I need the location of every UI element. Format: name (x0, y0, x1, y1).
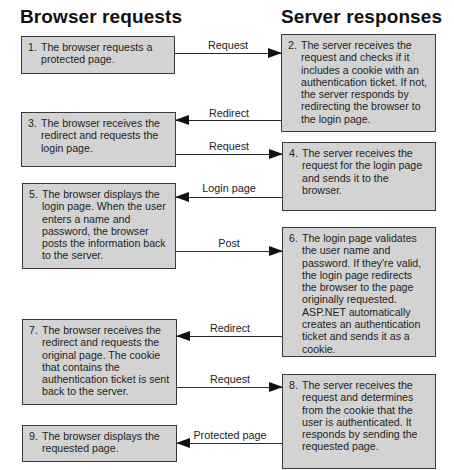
server-step-2-box: 2. The server receives the request and c… (281, 34, 436, 132)
arrow-request-3 (177, 387, 282, 388)
arrow-right-icon (269, 246, 283, 256)
step-number: 3. (28, 117, 37, 129)
arrow-label-request-3: Request (177, 373, 283, 385)
arrow-label-post: Post (176, 237, 282, 249)
arrow-left-icon (175, 192, 189, 202)
step-text: The server receives the request and chec… (288, 39, 429, 125)
step-text: The browser displays the login page. Whe… (29, 188, 169, 262)
arrow-login-page (176, 197, 282, 198)
step-text: The server receives the request and dete… (289, 379, 429, 453)
server-step-6-box: 6. The login page validates the user nam… (282, 227, 436, 357)
server-step-8-box: 8. The server receives the request and d… (282, 374, 436, 469)
arrow-label-redirect-2: Redirect (177, 322, 283, 334)
browser-step-1-box: 1. The browser requests a protected page… (21, 36, 175, 74)
browser-step-7-box: 7. The browser receives the redirect and… (22, 319, 177, 405)
arrow-protected-page (177, 443, 282, 444)
arrow-left-icon (175, 115, 189, 125)
arrow-label-protected-page: Protected page (177, 429, 283, 441)
step-number: 5. (29, 188, 38, 200)
step-number: 8. (289, 379, 298, 391)
arrow-label-request-2: Request (176, 140, 282, 152)
browser-step-5-box: 5. The browser displays the login page. … (22, 183, 176, 269)
arrow-label-request-1: Request (175, 39, 281, 51)
arrow-post (176, 251, 282, 252)
step-number: 9. (29, 430, 38, 442)
server-column-title: Server responses (281, 6, 442, 28)
arrow-right-icon (269, 149, 283, 159)
browser-column-title: Browser requests (20, 6, 182, 28)
step-number: 7. (29, 324, 38, 336)
step-number: 2. (288, 39, 297, 51)
arrow-request-2 (176, 154, 282, 155)
step-text: The login page validates the user name a… (289, 232, 429, 355)
arrow-label-login-page: Login page (176, 182, 282, 194)
server-step-4-box: 4. The server receives the request for t… (282, 142, 436, 211)
browser-step-3-box: 3. The browser receives the redirect and… (21, 112, 176, 167)
arrow-redirect-1 (176, 120, 281, 121)
arrow-right-icon (269, 382, 283, 392)
step-number: 6. (289, 232, 298, 244)
step-text: The browser requests a protected page. (28, 41, 168, 66)
step-number: 4. (289, 147, 298, 159)
step-text: The browser displays the requested page. (29, 430, 170, 455)
arrow-label-redirect-1: Redirect (176, 107, 282, 119)
arrow-request-1 (175, 53, 281, 54)
arrow-redirect-2 (177, 336, 282, 337)
step-number: 1. (28, 41, 37, 53)
arrow-left-icon (176, 331, 190, 341)
step-text: The server receives the request for the … (289, 147, 429, 196)
arrow-left-icon (176, 438, 190, 448)
browser-step-9-box: 9. The browser displays the requested pa… (22, 425, 177, 462)
step-text: The browser receives the redirect and re… (29, 324, 170, 398)
arrow-right-icon (268, 48, 282, 58)
step-text: The browser receives the redirect and re… (28, 117, 169, 154)
